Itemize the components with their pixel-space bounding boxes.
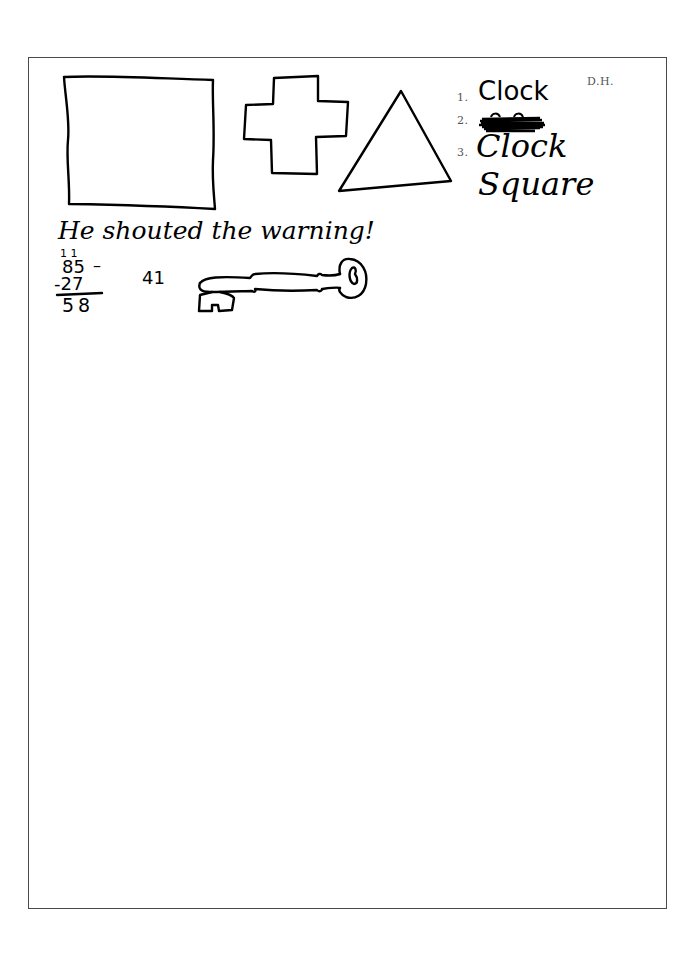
drawings-canvas xyxy=(0,0,698,964)
subtrahend: -27 xyxy=(54,273,83,294)
minus-dash: – xyxy=(93,256,101,275)
recall-word-3: Clock xyxy=(476,127,567,165)
drawn-square xyxy=(64,76,215,209)
recall-word-1: Clock xyxy=(478,76,549,106)
drawn-triangle xyxy=(339,91,451,191)
list-number-3: 3. xyxy=(457,146,469,159)
drawn-key xyxy=(199,259,366,311)
recall-extra-word: Square xyxy=(478,165,594,203)
result: 58 xyxy=(62,294,94,316)
written-sentence: He shouted the warning! xyxy=(58,216,375,245)
side-number: 41 xyxy=(142,267,165,288)
drawn-cross xyxy=(244,76,348,174)
list-number-2: 2. xyxy=(457,114,469,127)
list-number-1: 1. xyxy=(457,91,469,104)
initials-label: D.H. xyxy=(587,75,614,88)
